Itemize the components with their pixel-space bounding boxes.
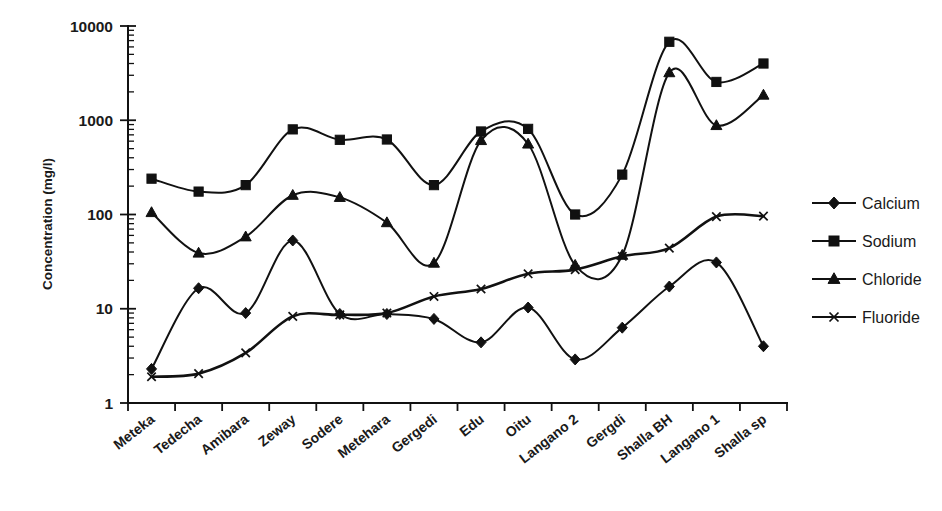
- legend-label-chloride: Chloride: [862, 271, 922, 288]
- x-tick-label: Oitu: [502, 411, 534, 441]
- data-point-calcium-7: [476, 337, 486, 348]
- data-point-sodium-8: [524, 124, 533, 133]
- x-tick-label: Zeway: [255, 411, 299, 450]
- y-tick-label: 1000: [79, 112, 113, 129]
- data-point-sodium-2: [241, 181, 250, 190]
- chart-legend: CalciumSodiumChlorideFluoride: [812, 195, 922, 326]
- y-tick-label: 10: [96, 300, 113, 317]
- data-point-chloride-13: [758, 89, 769, 99]
- series-calcium: [146, 235, 768, 374]
- data-point-sodium-6: [429, 181, 438, 190]
- x-axis-tick-labels: MetekaTedechaAmibaraZewaySodereMeteharaG…: [110, 411, 769, 467]
- series-chloride: [146, 67, 769, 279]
- legend-label-fluoride: Fluoride: [862, 309, 920, 326]
- y-axis-title-text: Concentration (mg/l): [40, 158, 55, 290]
- legend-item-fluoride[interactable]: Fluoride: [812, 309, 920, 326]
- x-tick-label: Edu: [456, 411, 487, 440]
- data-point-sodium-5: [382, 135, 391, 144]
- data-point-sodium-3: [288, 125, 297, 134]
- y-axis-tick-labels: 110100100010000: [70, 18, 113, 412]
- x-tick-label: Shalla sp: [711, 411, 769, 461]
- series-fluoride: [147, 212, 767, 381]
- x-axis-ticks: [128, 403, 787, 411]
- data-point-sodium-1: [194, 187, 203, 196]
- data-point-chloride-12: [711, 120, 722, 130]
- series-sodium: [147, 37, 768, 219]
- data-point-calcium-6: [429, 313, 439, 324]
- line-chart: 110100100010000 MetekaTedechaAmibaraZewa…: [0, 0, 942, 511]
- data-point-sodium-0: [147, 174, 156, 183]
- data-point-chloride-0: [146, 207, 157, 217]
- legend-item-sodium[interactable]: Sodium: [812, 233, 916, 250]
- legend-label-calcium: Calcium: [862, 195, 920, 212]
- x-tick-label: Gergedi: [388, 411, 440, 456]
- data-point-sodium-9: [571, 210, 580, 219]
- y-tick-label: 1: [104, 395, 113, 412]
- x-tick-label: Metehara: [334, 411, 392, 462]
- chart-figure: 110100100010000 MetekaTedechaAmibaraZewa…: [0, 0, 942, 511]
- data-point-sodium-4: [335, 135, 344, 144]
- y-tick-label: 100: [87, 206, 113, 223]
- data-point-calcium-9: [570, 354, 580, 365]
- chart-series: [146, 37, 769, 381]
- legend-item-calcium[interactable]: Calcium: [812, 195, 920, 212]
- data-point-legend-sodium: [829, 236, 839, 246]
- x-tick-label: Tedecha: [151, 411, 205, 458]
- data-point-fluoride-2: [241, 349, 249, 357]
- data-point-sodium-13: [759, 59, 768, 68]
- data-point-calcium-3: [288, 235, 298, 246]
- y-axis-title: Concentration (mg/l): [40, 158, 55, 290]
- data-point-chloride-2: [240, 231, 251, 241]
- data-point-calcium-13: [758, 341, 768, 352]
- data-point-legend-calcium: [829, 197, 840, 209]
- y-tick-label: 10000: [70, 18, 113, 35]
- legend-item-chloride[interactable]: Chloride: [812, 271, 922, 288]
- data-point-sodium-10: [618, 170, 627, 179]
- legend-label-sodium: Sodium: [862, 233, 916, 250]
- data-point-chloride-5: [381, 217, 392, 227]
- x-tick-label: Amibara: [198, 411, 252, 458]
- data-point-sodium-12: [712, 77, 721, 86]
- data-point-sodium-11: [665, 37, 674, 46]
- data-point-calcium-8: [523, 302, 533, 313]
